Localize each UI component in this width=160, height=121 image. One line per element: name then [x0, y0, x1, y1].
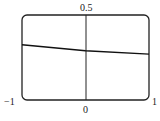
tick-label-right: 1 — [152, 97, 157, 107]
tick-label-center: 0 — [83, 105, 88, 115]
tick-label-left: −1 — [4, 97, 15, 107]
chart-plot — [0, 0, 160, 121]
tick-label-top: 0.5 — [80, 3, 93, 13]
